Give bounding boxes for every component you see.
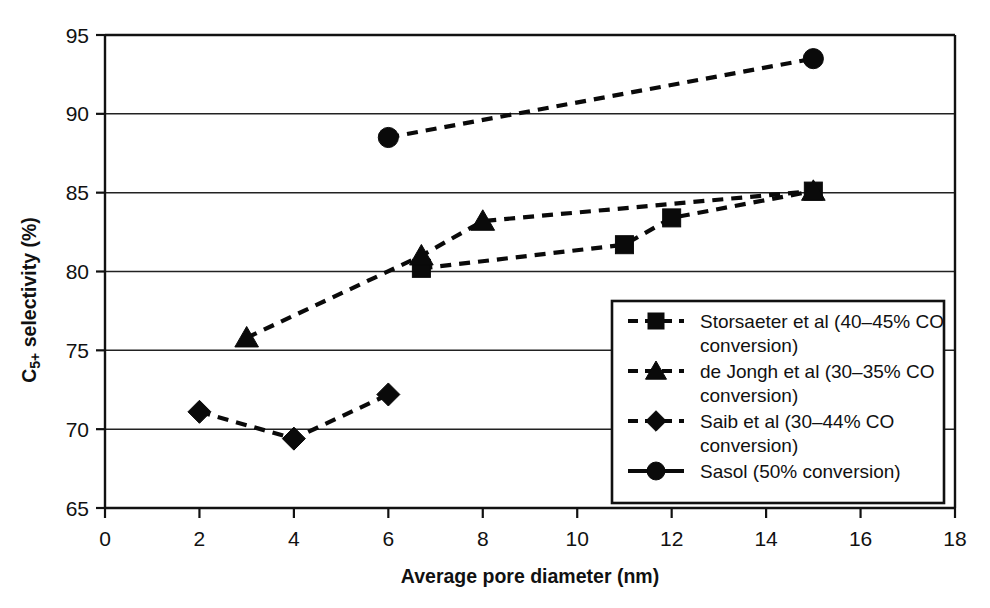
legend-label-continued: conversion): [700, 385, 798, 406]
y-tick-label: 70: [66, 418, 89, 441]
x-tick-label: 14: [754, 527, 778, 550]
y-tick-label: 75: [66, 339, 89, 362]
legend-label-continued: conversion): [700, 435, 798, 456]
legend-label: Saib et al (30–44% CO: [700, 411, 894, 432]
x-tick-label: 18: [943, 527, 966, 550]
x-tick-label: 6: [382, 527, 394, 550]
data-point-diamond: [282, 427, 305, 450]
legend-label: Sasol (50% conversion): [700, 461, 901, 482]
x-tick-label: 16: [849, 527, 872, 550]
y-axis-title: C5+ selectivity (%): [18, 217, 43, 383]
data-point-triangle: [410, 244, 434, 264]
data-point-square: [615, 236, 633, 254]
y-tick-label: 90: [66, 102, 89, 125]
chart-svg: 65707580859095 024681012141618 Average p…: [0, 0, 990, 608]
y-tick-labels: 65707580859095: [66, 24, 89, 520]
legend-label: de Jongh et al (30–35% CO: [700, 361, 935, 382]
data-point-square: [648, 313, 664, 329]
y-tick-label: 80: [66, 260, 89, 283]
legend-label: Storsaeter et al (40–45% CO: [700, 311, 944, 332]
data-point-diamond: [188, 400, 211, 423]
x-tick-label: 12: [660, 527, 683, 550]
data-point-circle: [803, 49, 823, 69]
y-axis-title-subscript: 5+: [27, 353, 43, 369]
svg-text:C5+ selectivity (%): C5+ selectivity (%): [18, 217, 43, 383]
series-2: [188, 383, 400, 450]
x-tick-label: 4: [288, 527, 300, 550]
y-tick-label: 85: [66, 181, 89, 204]
y-axis-title-rest: selectivity (%): [18, 217, 40, 352]
series-line: [388, 59, 813, 138]
x-tick-label: 0: [99, 527, 111, 550]
y-tick-label: 95: [66, 24, 89, 47]
series-3: [378, 49, 823, 148]
x-tick-labels: 024681012141618: [99, 527, 967, 550]
y-tick-label: 65: [66, 497, 89, 520]
legend-label-continued: conversion): [700, 335, 798, 356]
data-point-diamond: [377, 383, 400, 406]
y-axis-title-base: C: [18, 369, 40, 383]
x-tick-label: 2: [194, 527, 206, 550]
chart-container: 65707580859095 024681012141618 Average p…: [0, 0, 990, 608]
data-point-circle: [647, 462, 665, 480]
x-tick-label: 8: [477, 527, 489, 550]
x-tick-label: 10: [566, 527, 589, 550]
x-axis-title: Average pore diameter (nm): [401, 565, 659, 587]
data-point-triangle: [235, 326, 259, 346]
data-point-square: [663, 209, 681, 227]
data-point-circle: [378, 127, 398, 147]
legend[interactable]: Storsaeter et al (40–45% COconversion)de…: [612, 301, 944, 503]
